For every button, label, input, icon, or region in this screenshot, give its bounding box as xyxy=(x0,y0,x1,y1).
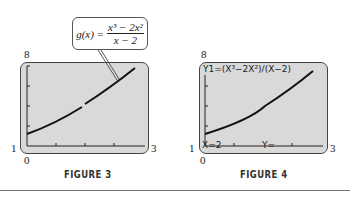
fig3-axes xyxy=(27,66,145,146)
bottom-rule xyxy=(0,190,350,191)
fig4-curve xyxy=(205,71,313,134)
callout-pointer xyxy=(98,50,119,80)
fig3-curve-right xyxy=(85,68,135,104)
fig4-axes xyxy=(205,75,323,146)
graph-curves xyxy=(0,0,350,201)
fig3-curve-left xyxy=(27,107,82,134)
